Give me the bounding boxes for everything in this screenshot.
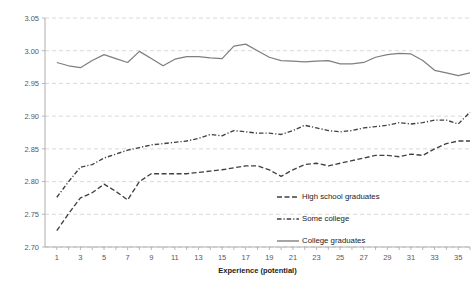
chart-container: 2.702.752.802.852.902.953.003.05 1357911… [0, 0, 476, 289]
x-tick-label: 15 [218, 253, 226, 262]
x-tick-label: 21 [289, 253, 297, 262]
x-axis-tick-labels: 1357911131517192123252729313335 [55, 253, 463, 262]
y-tick-label: 2.80 [24, 177, 39, 186]
x-tick-label: 7 [126, 253, 130, 262]
gridlines [45, 18, 470, 247]
x-tick-label: 27 [360, 253, 368, 262]
line-chart: 2.702.752.802.852.902.953.003.05 1357911… [0, 0, 476, 289]
y-tick-label: 3.05 [24, 14, 39, 23]
series-line-college-graduates [57, 44, 470, 75]
data-series [57, 44, 470, 230]
series-line-some-college [57, 112, 470, 197]
legend-label-college-graduates: College graduates [302, 236, 365, 245]
x-axis-title: Experience (potential) [218, 266, 297, 275]
legend-label-high-school-graduates: High school graduates [302, 192, 380, 201]
legend-label-some-college: Some college [302, 214, 349, 223]
x-tick-label: 29 [383, 253, 391, 262]
y-tick-label: 3.00 [24, 47, 39, 56]
x-tick-label: 25 [336, 253, 344, 262]
y-tick-label: 2.70 [24, 243, 39, 252]
x-tick-label: 13 [194, 253, 202, 262]
y-tick-label: 2.95 [24, 79, 39, 88]
x-tick-label: 9 [149, 253, 153, 262]
x-tick-label: 19 [265, 253, 273, 262]
chart-legend: High school graduatesSome collegeCollege… [277, 192, 380, 245]
y-tick-label: 2.90 [24, 112, 39, 121]
series-line-high-school-graduates [57, 141, 470, 231]
x-tick-label: 33 [430, 253, 438, 262]
x-tick-label: 35 [454, 253, 462, 262]
axes [42, 18, 470, 250]
y-tick-label: 2.85 [24, 145, 39, 154]
x-tick-label: 31 [407, 253, 415, 262]
x-tick-label: 23 [312, 253, 320, 262]
x-tick-label: 17 [242, 253, 250, 262]
x-tick-label: 3 [78, 253, 82, 262]
x-tick-label: 5 [102, 253, 106, 262]
y-tick-label: 2.75 [24, 210, 39, 219]
y-axis-tick-labels: 2.702.752.802.852.902.953.003.05 [24, 14, 39, 252]
x-tick-label: 11 [171, 253, 179, 262]
x-tick-label: 1 [55, 253, 59, 262]
